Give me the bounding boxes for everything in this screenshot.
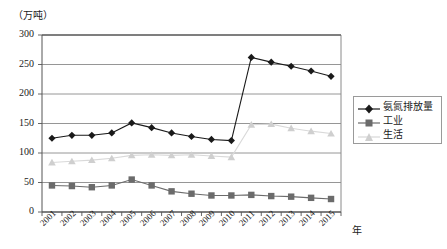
y-tick-label-50: 50 <box>8 176 34 187</box>
data-point-marker <box>268 193 274 199</box>
data-point-marker <box>109 182 115 188</box>
y-tick-label-100: 100 <box>8 146 34 157</box>
data-point-marker <box>228 137 235 144</box>
data-point-marker <box>128 119 135 126</box>
chart-container: （万吨） 050100150200250300 2001200220032004… <box>0 0 447 249</box>
data-point-marker <box>129 176 135 182</box>
data-point-marker <box>248 54 255 61</box>
data-point-marker <box>228 192 234 198</box>
y-tick-label-250: 250 <box>8 58 34 69</box>
data-point-marker <box>108 129 115 136</box>
data-point-marker <box>168 129 175 136</box>
series-2 <box>48 120 335 165</box>
data-point-marker <box>288 63 295 70</box>
data-point-marker <box>328 196 334 202</box>
legend-label-0: 氨氮排放量 <box>381 101 433 113</box>
legend-marker-triangle-icon <box>357 129 381 141</box>
x-axis-name: 年 <box>352 222 362 237</box>
data-point-marker <box>48 135 55 142</box>
data-point-marker <box>89 184 95 190</box>
y-tick-label-200: 200 <box>8 87 34 98</box>
legend-marker-diamond-icon <box>357 101 381 113</box>
data-point-marker <box>327 73 334 80</box>
data-point-marker <box>188 191 194 197</box>
y-tick-label-0: 0 <box>8 205 34 216</box>
data-point-marker <box>208 136 215 143</box>
data-point-marker <box>188 133 195 140</box>
legend-marker-square-icon <box>357 115 381 127</box>
data-point-marker <box>148 182 154 188</box>
data-point-marker <box>248 192 254 198</box>
series-1 <box>49 176 334 202</box>
data-point-marker <box>288 193 294 199</box>
data-point-marker <box>308 67 315 74</box>
y-tick-label-150: 150 <box>8 117 34 128</box>
legend-item-2: 生活 <box>357 128 438 142</box>
data-point-marker <box>168 188 174 194</box>
legend-label-1: 工业 <box>381 115 403 127</box>
data-point-marker <box>308 195 314 201</box>
legend-item-0: 氨氮排放量 <box>357 100 438 114</box>
legend-label-2: 生活 <box>381 129 403 141</box>
y-tick-label-300: 300 <box>8 28 34 39</box>
data-point-marker <box>68 132 75 139</box>
data-point-marker <box>69 183 75 189</box>
data-point-marker <box>148 124 155 131</box>
chart-legend: 氨氮排放量 工业 生活 <box>353 96 442 144</box>
data-point-marker <box>49 182 55 188</box>
data-point-marker <box>88 132 95 139</box>
legend-item-1: 工业 <box>357 114 438 128</box>
data-point-marker <box>208 192 214 198</box>
